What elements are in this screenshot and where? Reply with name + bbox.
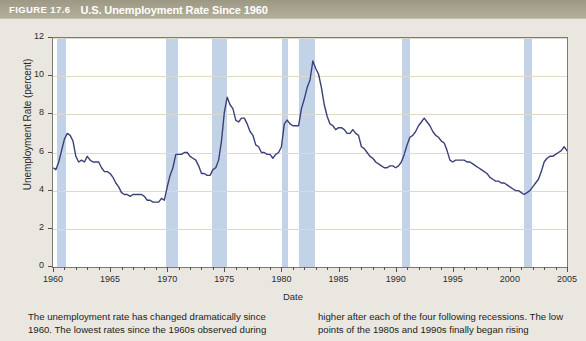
y-axis-tick-label: 0 xyxy=(18,260,44,270)
caption-column-left: The unemployment rate has changed dramat… xyxy=(28,311,290,336)
x-axis-tick-major xyxy=(53,267,54,272)
x-axis-tick-minor xyxy=(99,267,100,270)
y-axis-tick-label: 8 xyxy=(18,107,44,117)
x-axis-tick-minor xyxy=(236,267,237,270)
x-axis-tick-minor xyxy=(76,267,77,270)
x-axis-tick-minor xyxy=(144,267,145,270)
x-axis-tick-minor xyxy=(361,267,362,270)
x-axis-tick-minor xyxy=(407,267,408,270)
y-axis-tick xyxy=(48,152,52,153)
x-axis-tick-minor xyxy=(64,267,65,270)
x-axis-tick-minor xyxy=(247,267,248,270)
y-axis-tick xyxy=(48,190,52,191)
x-axis-tick-minor xyxy=(384,267,385,270)
x-axis-tick-major xyxy=(396,267,397,272)
x-axis-tick-minor xyxy=(133,267,134,270)
series-unemployment-rate xyxy=(53,38,567,267)
series-line xyxy=(53,61,567,202)
y-axis-tick-label: 2 xyxy=(18,222,44,232)
y-axis-tick-label: 10 xyxy=(18,69,44,79)
x-axis-tick-minor xyxy=(487,267,488,270)
x-axis-tick-minor xyxy=(270,267,271,270)
x-axis-tick-minor xyxy=(464,267,465,270)
x-axis-tick-label: 1965 xyxy=(90,274,130,284)
x-axis-tick-major xyxy=(339,267,340,272)
y-axis-tick-label: 12 xyxy=(18,31,44,41)
plot-inner xyxy=(53,38,567,267)
x-axis-tick-label: 2000 xyxy=(490,274,530,284)
x-axis-tick-label: 1970 xyxy=(147,274,187,284)
y-axis-tick xyxy=(48,113,52,114)
x-axis-tick-minor xyxy=(544,267,545,270)
y-axis-tick xyxy=(48,266,52,267)
x-axis-tick-minor xyxy=(87,267,88,270)
x-axis-tick-minor xyxy=(316,267,317,270)
y-axis-tick xyxy=(48,228,52,229)
x-axis-tick-minor xyxy=(441,267,442,270)
x-axis-tick-major xyxy=(110,267,111,272)
x-axis-tick-label: 1975 xyxy=(204,274,244,284)
x-axis-tick-major xyxy=(224,267,225,272)
x-axis-tick-minor xyxy=(327,267,328,270)
x-axis-tick-minor xyxy=(201,267,202,270)
x-axis-tick-major xyxy=(510,267,511,272)
x-axis-tick-label: 1985 xyxy=(319,274,359,284)
x-axis-label: Date xyxy=(0,291,586,302)
figure-caption: The unemployment rate has changed dramat… xyxy=(0,311,586,341)
x-axis-tick-minor xyxy=(350,267,351,270)
x-axis-tick-minor xyxy=(190,267,191,270)
figure-title: U.S. Unemployment Rate Since 1960 xyxy=(80,4,267,16)
x-axis-tick-minor xyxy=(419,267,420,270)
x-axis-tick-label: 1990 xyxy=(376,274,416,284)
x-axis-tick-minor xyxy=(156,267,157,270)
figure-container: FIGURE 17.6 U.S. Unemployment Rate Since… xyxy=(0,0,586,341)
x-axis-tick-minor xyxy=(521,267,522,270)
x-axis-tick-minor xyxy=(430,267,431,270)
x-axis-tick-minor xyxy=(556,267,557,270)
x-axis-tick-major xyxy=(167,267,168,272)
x-axis-tick-label: 1995 xyxy=(433,274,473,284)
y-axis-tick xyxy=(48,37,52,38)
x-axis-tick-minor xyxy=(373,267,374,270)
figure-number: FIGURE 17.6 xyxy=(9,4,70,15)
x-axis-tick-label: 1960 xyxy=(33,274,73,284)
y-axis-tick xyxy=(48,75,52,76)
x-axis-tick-major xyxy=(453,267,454,272)
x-axis-tick-major xyxy=(281,267,282,272)
x-axis-tick-label: 2005 xyxy=(547,274,586,284)
caption-column-right: higher after each of the four following … xyxy=(318,311,580,336)
y-axis-tick-label: 4 xyxy=(18,184,44,194)
x-axis-tick-minor xyxy=(259,267,260,270)
x-axis-tick-minor xyxy=(179,267,180,270)
x-axis-tick-minor xyxy=(213,267,214,270)
x-axis-tick-minor xyxy=(498,267,499,270)
x-axis-tick-minor xyxy=(122,267,123,270)
x-axis-tick-major xyxy=(567,267,568,272)
x-axis-tick-minor xyxy=(533,267,534,270)
x-axis-tick-minor xyxy=(304,267,305,270)
chart-area: Unemployment Rate (percent) Date 0246810… xyxy=(0,19,586,311)
x-axis-tick-minor xyxy=(476,267,477,270)
plot-frame xyxy=(52,37,568,268)
x-axis-tick-label: 1980 xyxy=(261,274,301,284)
y-axis-tick-label: 6 xyxy=(18,146,44,156)
figure-header-bar: FIGURE 17.6 U.S. Unemployment Rate Since… xyxy=(0,0,586,19)
x-axis-tick-minor xyxy=(293,267,294,270)
